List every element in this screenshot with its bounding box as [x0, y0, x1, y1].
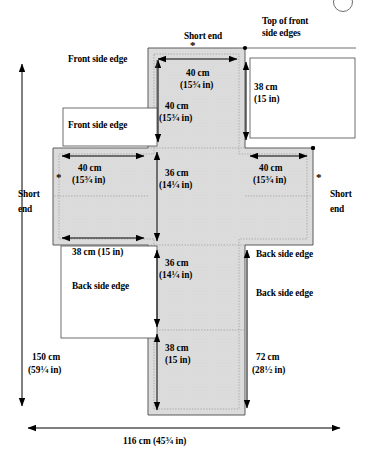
asterisk-marker-right: *: [316, 172, 322, 183]
in-whole: (14: [159, 180, 171, 190]
label-front-side-edge-upper: Front side edge: [68, 54, 127, 65]
in-tail: in): [179, 270, 192, 280]
dim-right-arm-width-cm: 40 cm: [259, 163, 283, 175]
label-front-side-edge-lower: Front side edge: [68, 120, 127, 131]
label-back-side-edge-left: Back side edge: [72, 281, 129, 292]
dim-right-overall-in: (281⁄2 in): [252, 365, 285, 377]
in-num: 3: [192, 79, 195, 86]
dim-top-arm-width-cm: 40 cm: [186, 68, 210, 80]
dim-center-lower-cm: 36 cm: [165, 258, 189, 270]
dim-right-top-drop-cm: 38 cm: [254, 82, 278, 94]
in-whole: (28: [252, 365, 264, 375]
asterisk-marker-left: *: [56, 172, 62, 183]
label-short-end-left-line2: end: [18, 204, 32, 215]
label-top-of-front-line2: side edges: [262, 28, 301, 39]
in-num: 3: [84, 174, 87, 181]
in-tail: in): [179, 180, 192, 190]
dim-overall-height-in: (591⁄4 in): [28, 365, 61, 377]
dim-bottom-stem-cm: 38 cm: [165, 343, 189, 355]
in-den: 4: [197, 82, 200, 89]
in-num: 1: [171, 269, 174, 276]
in-num: 1: [171, 179, 174, 186]
in-den: 4: [170, 438, 173, 445]
in-tail: in): [273, 175, 286, 185]
dim-center-upper-cm: 36 cm: [165, 168, 189, 180]
in-whole: (15: [180, 80, 192, 90]
dim-overall-width: 116 cm (453⁄4 in): [123, 436, 186, 448]
in-whole: (45: [153, 436, 165, 446]
in-whole: (15: [72, 175, 84, 185]
in-den: 4: [45, 367, 48, 374]
in-den: 4: [176, 115, 179, 122]
dim-left-arm-width-in: (153⁄4 in): [72, 175, 105, 187]
in-num: 3: [265, 174, 268, 181]
in-den: 2: [269, 367, 272, 374]
label-short-end-top: Short end: [168, 31, 238, 42]
pattern-diagram-svg: [0, 0, 367, 456]
dim-overall-width-cm: 116 cm: [123, 436, 151, 446]
dim-bottom-stem-in: (15 in): [165, 355, 191, 367]
in-den: 4: [89, 177, 92, 184]
dim-right-overall-cm: 72 cm: [256, 352, 280, 364]
dim-overall-height-cm: 150 cm: [32, 352, 60, 364]
label-back-side-edge-right-upper: Back side edge: [256, 249, 313, 260]
label-back-side-edge-right-lower: Back side edge: [256, 288, 313, 299]
in-tail: in): [179, 113, 192, 123]
in-den: 4: [176, 182, 179, 189]
in-num: 1: [40, 364, 43, 371]
dim-top-arm-height-cm: 40 cm: [165, 101, 189, 113]
label-short-end-right-line2: end: [330, 204, 344, 215]
label-short-end-left-line1: Short: [18, 189, 40, 200]
in-tail: in): [48, 365, 61, 375]
in-whole: (15: [159, 113, 171, 123]
label-top-of-front-line1: Top of front: [262, 16, 308, 27]
in-whole: (59: [28, 365, 40, 375]
dim-top-arm-height-in: (153⁄4 in): [159, 113, 192, 125]
in-whole: (15: [253, 175, 265, 185]
in-num: 3: [165, 435, 168, 442]
in-den: 4: [176, 272, 179, 279]
dim-center-lower-in: (141⁄4 in): [159, 270, 192, 282]
dim-right-top-drop-in: (15 in): [254, 94, 280, 106]
in-num: 1: [264, 364, 267, 371]
in-num: 3: [171, 112, 174, 119]
in-whole: (14: [159, 270, 171, 280]
dim-left-arm-width-cm: 40 cm: [78, 163, 102, 175]
dim-top-arm-width-in: (153⁄4 in): [180, 80, 213, 92]
in-den: 4: [270, 177, 273, 184]
dim-right-arm-width-in: (153⁄4 in): [253, 175, 286, 187]
label-short-end-right-line1: Short: [330, 189, 352, 200]
diagram-canvas: Short end * Top of front side edges Fron…: [0, 0, 367, 456]
asterisk-marker-top: *: [190, 40, 196, 51]
in-tail: in): [272, 365, 285, 375]
in-tail: in): [200, 80, 213, 90]
in-tail: in): [92, 175, 105, 185]
dim-center-upper-in: (141⁄4 in): [159, 180, 192, 192]
in-tail: in): [173, 436, 186, 446]
dim-left-arm-depth: 38 cm (15 in): [72, 247, 123, 259]
